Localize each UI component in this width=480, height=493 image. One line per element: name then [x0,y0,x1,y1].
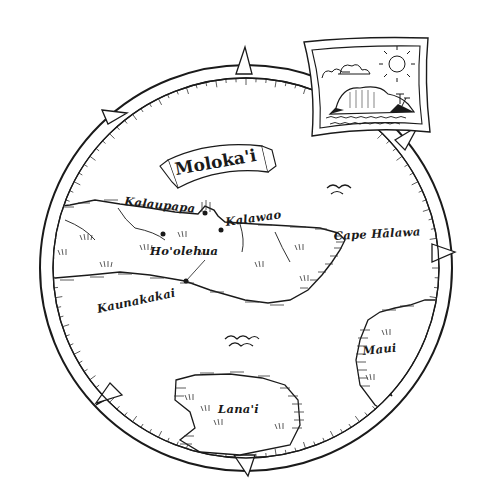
illustrated-map: Moloka'i Kalaupapa Kalawao Ho'olehua Kau… [0,0,480,493]
kalawao-dot-icon [219,228,224,233]
inset-picture [304,38,430,137]
label-hoolehua: Ho'olehua [149,244,218,258]
label-lanai: Lana'i [217,402,259,416]
island-maui [356,300,440,420]
north-marker-icon [236,47,252,74]
title-banner: Moloka'i [160,145,276,188]
label-kaunakakai: Kaunakakai [95,286,177,316]
kalaupapa-dot-icon [203,211,208,216]
label-cape-halawa: Cape Hālawa [333,224,420,243]
hoolehua-dot-icon [161,232,166,237]
